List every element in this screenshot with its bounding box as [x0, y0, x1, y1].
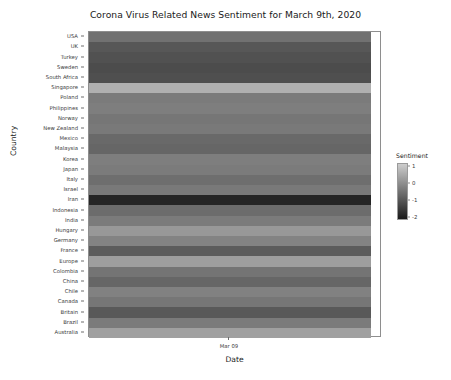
y-axis-tick-mark	[81, 250, 84, 251]
heatmap-row	[89, 256, 371, 267]
y-axis-tick-label: Turkey	[61, 54, 78, 60]
y-axis-tick-mark	[81, 311, 84, 312]
y-axis-tick-label: India	[65, 217, 78, 223]
heatmap-row	[89, 216, 371, 226]
y-axis-tick-mark	[81, 117, 84, 118]
heatmap-row	[89, 318, 371, 328]
y-axis-tick-mark	[81, 270, 84, 271]
colorbar-tick-mark	[408, 199, 410, 200]
heatmap-row	[89, 32, 371, 42]
plot-area	[88, 31, 381, 337]
colorbar-tick-mark	[408, 216, 410, 217]
colorbar-title: Sentiment	[396, 152, 428, 159]
y-axis-tick-mark	[81, 219, 84, 220]
y-axis-tick-mark	[81, 168, 84, 169]
heatmap-row	[89, 277, 371, 287]
heatmap-row	[89, 42, 371, 52]
y-axis-tick-labels: USAUKTurkeySwedenSouth AfricaSingaporePo…	[0, 31, 84, 337]
y-axis-tick-label: South Africa	[46, 74, 78, 80]
y-axis-tick-label: Mexico	[60, 135, 79, 141]
chart-title: Corona Virus Related News Sentiment for …	[0, 9, 451, 20]
y-axis-tick-label: Brazil	[63, 319, 78, 325]
colorbar-tick-label: -2	[412, 214, 417, 220]
y-axis-tick-mark	[81, 209, 84, 210]
heatmap-chart: Corona Virus Related News Sentiment for …	[0, 0, 451, 380]
y-axis-tick-mark	[81, 189, 84, 190]
y-axis-tick-mark	[81, 138, 84, 139]
x-axis-tick-label: Mar 09	[200, 343, 258, 349]
y-axis-tick-mark	[81, 260, 84, 261]
y-axis-tick-label: UK	[71, 43, 78, 49]
heatmap-row	[89, 103, 371, 114]
heatmap-row	[89, 287, 371, 297]
y-axis-tick-mark	[81, 107, 84, 108]
y-axis-tick-mark	[81, 148, 84, 149]
colorbar-tick-mark	[408, 183, 410, 184]
heatmap-row	[89, 93, 371, 103]
y-axis-tick-mark	[81, 291, 84, 292]
heatmap-row	[89, 165, 371, 175]
heatmap-row	[89, 144, 371, 154]
colorbar-tick-mark	[408, 166, 410, 167]
heatmap-row	[89, 114, 371, 124]
y-axis-tick-mark	[81, 158, 84, 159]
heatmap-row	[89, 226, 371, 236]
y-axis-tick-label: Italy	[67, 176, 79, 182]
heatmap-row	[89, 236, 371, 246]
y-axis-tick-label: France	[60, 247, 78, 253]
y-axis-tick-label: Australia	[55, 329, 78, 335]
y-axis-tick-label: Indonesia	[52, 207, 78, 213]
y-axis-tick-label: USA	[67, 33, 78, 39]
y-axis-tick-label: Norway	[58, 115, 78, 121]
y-axis-tick-label: China	[63, 278, 78, 284]
heatmap-row	[89, 154, 371, 165]
heatmap-row	[89, 205, 371, 216]
y-axis-tick-label: Chile	[65, 288, 78, 294]
heatmap-row	[89, 185, 371, 195]
heatmap-row	[89, 307, 371, 318]
heatmap-row	[89, 267, 371, 277]
y-axis-tick-label: New Zealand	[43, 125, 78, 131]
heatmap-row	[89, 175, 371, 185]
y-axis-tick-mark	[81, 331, 84, 332]
y-axis-tick-mark	[81, 87, 84, 88]
y-axis-tick-label: Singapore	[51, 84, 78, 90]
y-axis-tick-mark	[81, 321, 84, 322]
y-axis-tick-label: Iran	[68, 196, 78, 202]
y-axis-tick-mark	[81, 178, 84, 179]
heatmap-row	[89, 246, 371, 256]
y-axis-tick-mark	[81, 36, 84, 37]
x-axis-tick-mark	[228, 337, 229, 340]
heatmap-cells	[89, 32, 371, 338]
y-axis-tick-label: Germany	[54, 237, 78, 243]
y-axis-tick-label: Europe	[59, 258, 78, 264]
y-axis-tick-mark	[81, 199, 84, 200]
y-axis-tick-mark	[81, 76, 84, 77]
y-axis-tick-mark	[81, 127, 84, 128]
heatmap-row	[89, 124, 371, 134]
y-axis-tick-mark	[81, 56, 84, 57]
y-axis-tick-label: Britain	[61, 309, 78, 315]
y-axis-tick-label: Sweden	[57, 64, 78, 70]
colorbar-tick-label: -1	[412, 197, 417, 203]
heatmap-row	[89, 52, 371, 63]
x-axis-title: Date	[88, 355, 381, 364]
colorbar-tick-label: 0	[412, 180, 415, 186]
y-axis-tick-label: Korea	[63, 156, 78, 162]
y-axis-tick-label: Malaysia	[55, 145, 78, 151]
heatmap-row	[89, 328, 371, 338]
y-axis-tick-mark	[81, 46, 84, 47]
colorbar-tick-label: 1	[412, 163, 415, 169]
y-axis-tick-label: Israel	[64, 186, 78, 192]
y-axis-tick-label: Hungary	[55, 227, 78, 233]
y-axis-tick-mark	[81, 280, 84, 281]
y-axis-tick-label: Poland	[60, 94, 78, 100]
y-axis-tick-label: Philippines	[49, 105, 78, 111]
y-axis-tick-label: Colombia	[53, 268, 78, 274]
y-axis-tick-label: Canada	[58, 298, 78, 304]
heatmap-row	[89, 134, 371, 144]
colorbar-legend: Sentiment 10-1-2	[396, 152, 451, 228]
colorbar-gradient	[397, 163, 408, 220]
heatmap-row	[89, 63, 371, 73]
heatmap-row	[89, 297, 371, 307]
